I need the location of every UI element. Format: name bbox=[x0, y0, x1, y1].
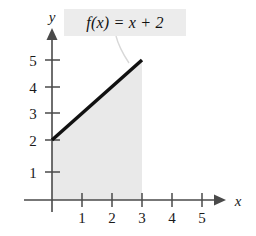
y-tick-label-2: 2 bbox=[29, 133, 37, 149]
y-tick-label-5: 5 bbox=[29, 53, 37, 69]
x-axis-label: x bbox=[234, 193, 242, 209]
x-axis-arrow-icon bbox=[214, 195, 226, 206]
label-leader-line bbox=[116, 36, 129, 63]
x-tick-label-3: 3 bbox=[138, 210, 146, 226]
y-axis-arrow-icon bbox=[47, 28, 58, 40]
y-tick-label-3: 3 bbox=[29, 106, 37, 122]
x-tick-label-4: 4 bbox=[168, 210, 176, 226]
x-tick-label-5: 5 bbox=[198, 210, 206, 226]
y-axis-label: y bbox=[47, 9, 56, 25]
x-tick-label-2: 2 bbox=[108, 210, 116, 226]
function-label-box: f(x) = x + 2 bbox=[64, 9, 186, 36]
y-tick-label-1: 1 bbox=[29, 165, 37, 181]
function-label-text: f(x) = x + 2 bbox=[86, 14, 163, 32]
x-tick-label-1: 1 bbox=[78, 210, 86, 226]
y-tick-label-4: 4 bbox=[29, 80, 37, 96]
function-graph-figure: 1 2 3 4 5 1 2 3 4 5 y x f(x) = x + 2 bbox=[0, 0, 256, 236]
